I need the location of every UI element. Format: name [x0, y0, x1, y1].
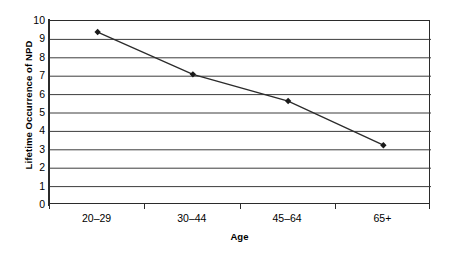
y-axis-tick-label: 8 [26, 51, 45, 63]
y-axis-tick-label: 4 [26, 124, 45, 136]
x-axis-tick-mark [144, 204, 145, 209]
x-axis-tick-mark [49, 204, 50, 209]
x-axis-title: Age [49, 231, 430, 243]
y-axis-tick-label: 0 [26, 198, 45, 210]
x-axis-tick-label: 20–29 [49, 211, 144, 225]
plot-area [49, 20, 430, 204]
x-axis-tick-label: 45–64 [240, 211, 335, 225]
x-axis-tick-mark [429, 204, 430, 209]
x-axis-tick-mark [335, 204, 336, 209]
plot-canvas [50, 21, 431, 205]
y-axis-tick-label: 9 [26, 32, 45, 44]
x-axis-tick-labels: 20–2930–4445–6465+ [49, 211, 430, 225]
series-line-lifetime-occurrence [98, 32, 384, 145]
y-axis-tick-labels: 109876543210 [26, 13, 45, 211]
x-axis-tick-label: 65+ [335, 211, 430, 225]
data-point-marker [94, 29, 100, 35]
data-point-marker [285, 98, 291, 104]
y-axis-tick-label: 6 [26, 88, 45, 100]
y-axis-tick-label: 3 [26, 143, 45, 155]
series-markers [94, 29, 386, 149]
line-chart: Lifetime Occurrence of NPD 109876543210 … [0, 0, 449, 260]
x-axis-tick-marks [49, 204, 430, 209]
y-axis-tick-label: 7 [26, 69, 45, 81]
gridlines [50, 39, 431, 186]
data-point-marker [380, 142, 386, 148]
x-axis-tick-label: 30–44 [144, 211, 239, 225]
y-axis-tick-label: 10 [26, 14, 45, 26]
y-axis-tick-label: 2 [26, 161, 45, 173]
y-axis-tick-label: 1 [26, 180, 45, 192]
x-axis-tick-mark [240, 204, 241, 209]
y-axis-tick-label: 5 [26, 106, 45, 118]
